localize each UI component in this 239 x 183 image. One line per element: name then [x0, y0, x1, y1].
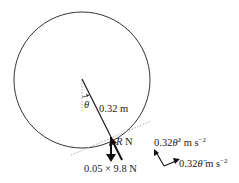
angle-label: θ — [84, 100, 89, 111]
radial-accel-arrow — [156, 152, 164, 166]
tangential-accel-arrow — [164, 161, 176, 166]
tangential-accel-label: 0.32θ̈ m s−2 — [179, 159, 228, 170]
radial-accel-coef: 0.32 — [154, 137, 172, 148]
reaction-label: R N — [116, 137, 133, 148]
weight-arrowhead — [106, 154, 116, 162]
tangential-accel-coef: 0.32 — [179, 158, 197, 169]
radius-label: 0.32 m — [99, 104, 128, 115]
tangential-accel-unit: m s — [203, 158, 221, 169]
radial-accel-unit: m s — [181, 137, 199, 148]
weight-label: 0.05 × 9.8 N — [84, 164, 137, 175]
tangential-accel-unit-exp: −2 — [220, 157, 227, 165]
reaction-unit: N — [122, 136, 132, 147]
diagram-canvas — [0, 0, 239, 183]
radial-accel-unit-exp: −2 — [199, 136, 206, 144]
radial-accel-label: 0.32θ̇2 m s−2 — [154, 138, 206, 149]
